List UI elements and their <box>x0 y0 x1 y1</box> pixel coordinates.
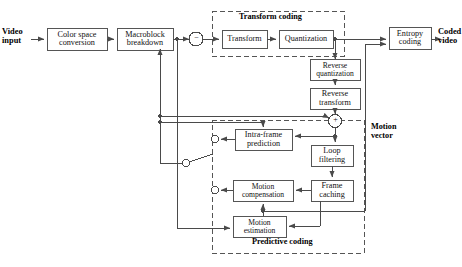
junction-dot-prediction-bus <box>158 114 162 118</box>
switch-pivot <box>183 160 190 167</box>
group-label-motion-vector: Motion vector <box>371 123 396 140</box>
block-intra-frame-prediction <box>235 129 292 150</box>
block-macroblock-breakdown <box>117 28 173 50</box>
block-entropy-coding <box>389 27 431 49</box>
switch-blade <box>189 154 213 162</box>
switch-terminal-motioncomp <box>212 187 219 194</box>
block-motion-estimation <box>233 216 286 237</box>
block-reverse-transform <box>310 88 360 109</box>
block-motion-compensation <box>233 180 293 201</box>
wire-prediction-into-add <box>325 116 329 118</box>
block-frame-caching <box>311 180 353 201</box>
junction-dot-quant-tap <box>333 37 337 41</box>
switch-terminal-intra <box>212 136 219 143</box>
add-node-sign: + <box>331 116 340 124</box>
block-color-space-conversion <box>47 28 107 50</box>
group-label-transform-coding: Transform coding <box>239 13 302 22</box>
junction-dot-prediction-bus-lower <box>158 120 162 124</box>
subtract-node-sign: − <box>192 34 201 42</box>
block-loop-filtering <box>311 145 353 166</box>
video-encoder-diagram: Video input Coded video Color space conv… <box>0 0 462 267</box>
block-quantization <box>279 30 333 48</box>
coded-video-label: Coded video <box>438 28 461 46</box>
block-transform <box>222 30 267 48</box>
video-input-label: Video input <box>2 28 23 46</box>
group-label-predictive-coding: Predictive coding <box>252 238 313 247</box>
block-reverse-quantization <box>310 59 360 80</box>
